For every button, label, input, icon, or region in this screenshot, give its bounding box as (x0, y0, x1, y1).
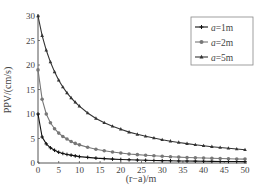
legend-label: a=5m (211, 53, 234, 63)
y-tick-label: 25 (26, 36, 36, 46)
x-tick-label: 20 (116, 165, 126, 175)
x-tick-label: 15 (96, 165, 106, 175)
y-tick-label: 30 (26, 11, 36, 21)
x-tick-label: 50 (241, 165, 251, 175)
y-tick-label: 20 (26, 60, 36, 70)
legend-label: a=1m (211, 23, 234, 33)
x-tick-label: 10 (75, 165, 85, 175)
y-tick-label: 5 (31, 134, 36, 144)
y-tick-label: 10 (26, 109, 36, 119)
y-tick-label: 0 (31, 158, 36, 168)
x-tick-label: 40 (199, 165, 209, 175)
legend-label: a=2m (211, 38, 234, 48)
x-tick-label: 45 (220, 165, 230, 175)
chart-canvas: 05101520253035404550051015202530 a=1ma=2… (0, 0, 261, 188)
ppv-decay-chart: 05101520253035404550051015202530 a=1ma=2… (0, 0, 261, 188)
x-tick-label: 5 (56, 165, 61, 175)
x-tick-label: 35 (178, 165, 188, 175)
y-axis-label: PPV/(cm/s) (2, 67, 14, 114)
y-tick-label: 15 (26, 85, 36, 95)
x-tick-label: 0 (36, 165, 41, 175)
legend: a=1ma=2ma=5m (191, 17, 253, 65)
x-axis-label: (r−a)/m (126, 173, 157, 185)
x-tick-label: 30 (158, 165, 168, 175)
